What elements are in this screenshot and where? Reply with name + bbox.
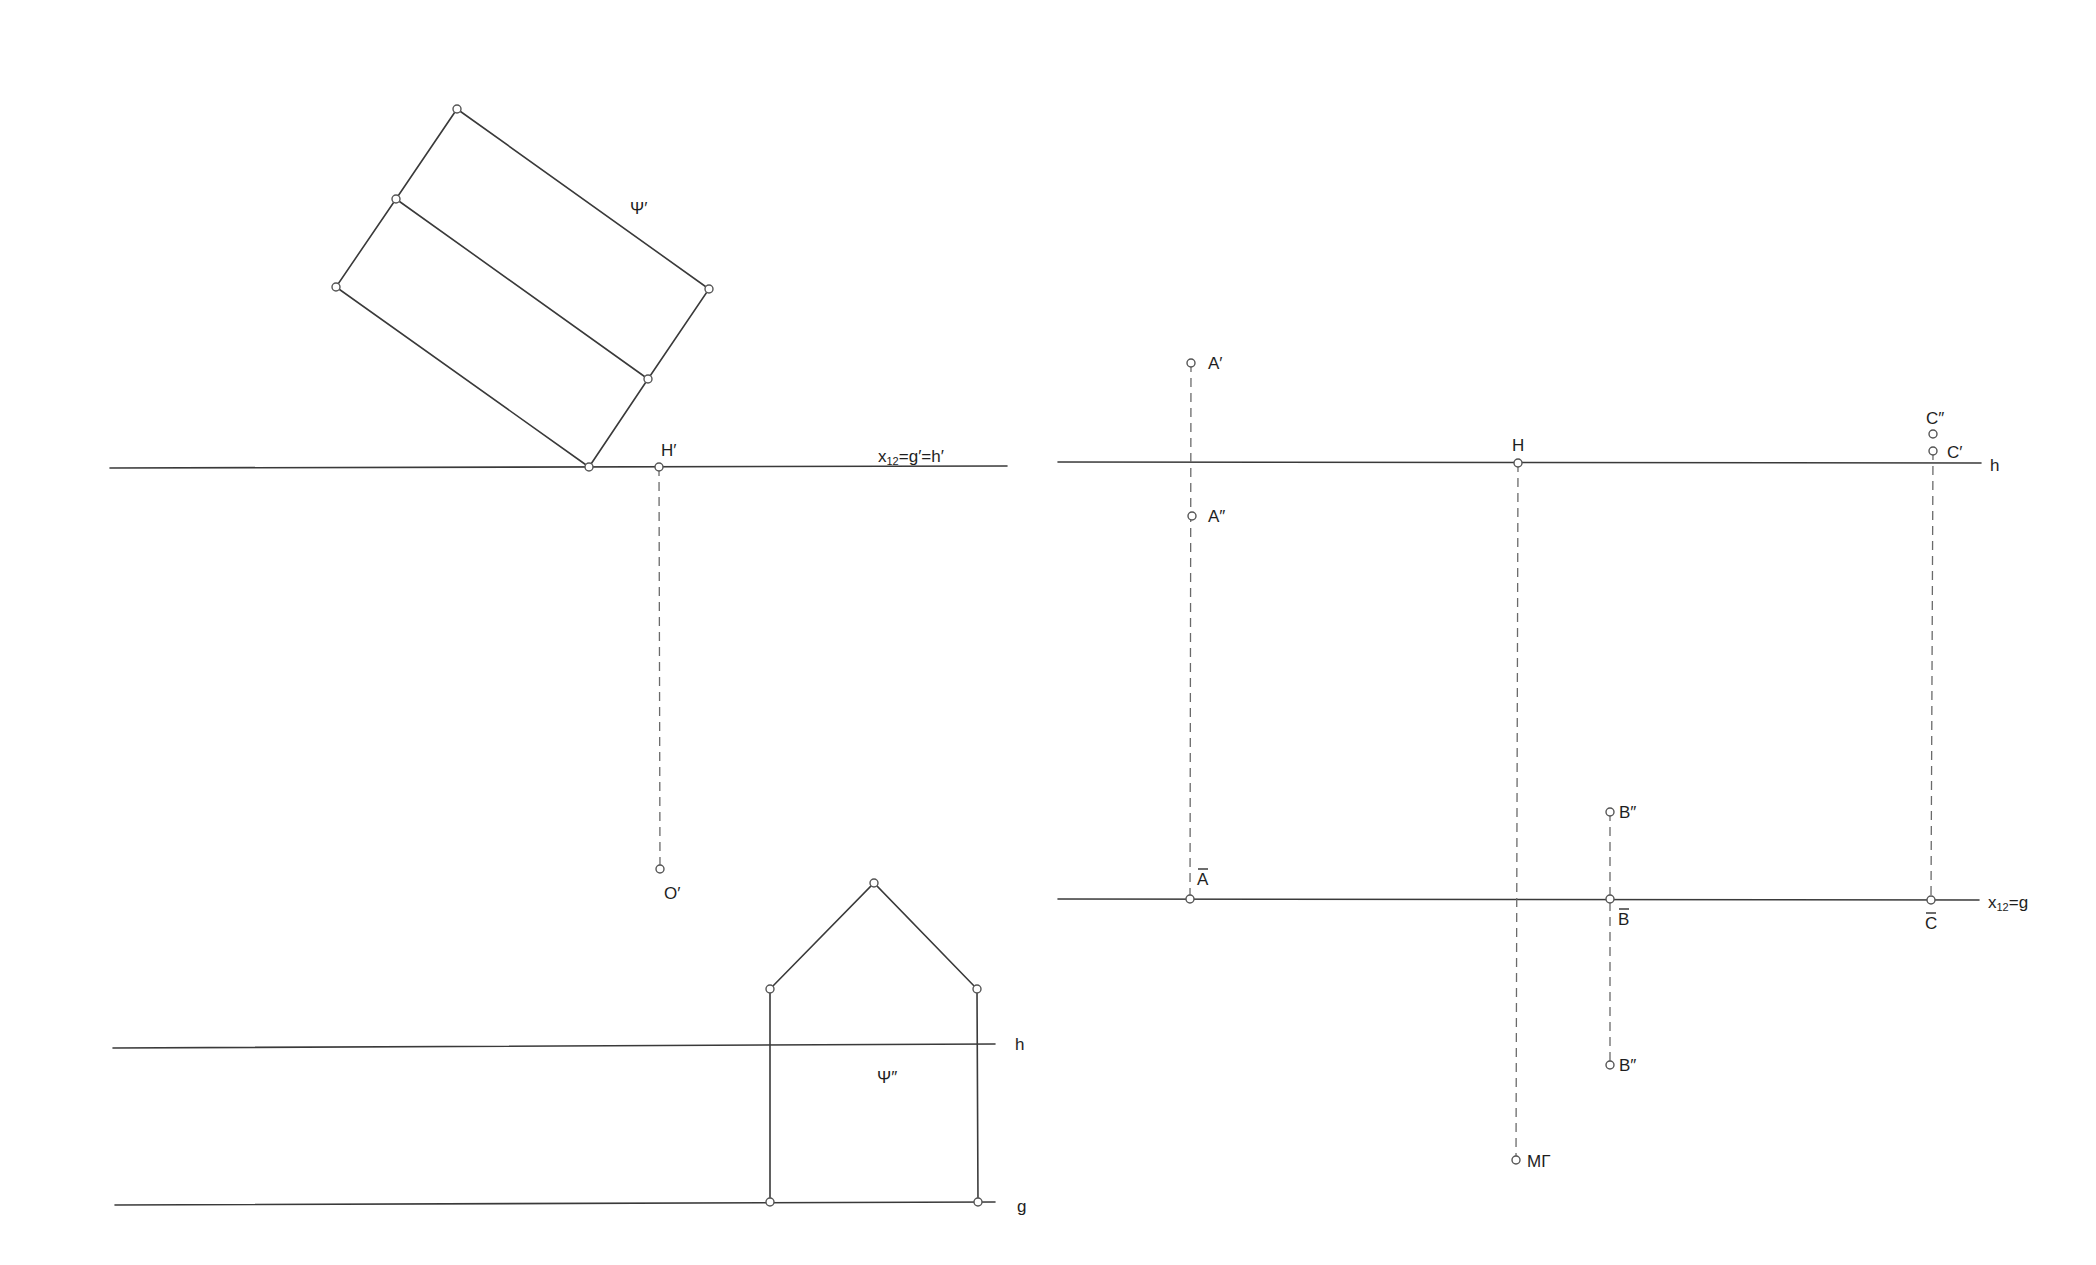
label-b-bar: B <box>1618 910 1629 929</box>
point-m-gamma <box>1512 1156 1520 1164</box>
label-a-bar: A <box>1197 870 1209 889</box>
right-view: hx12=gA′A″AHMΓB″BB″C″C′C <box>1058 354 2028 1171</box>
point-b-double-lower <box>1606 1061 1614 1069</box>
vertex-point-bottom <box>585 463 593 471</box>
label-c-bar: C <box>1925 914 1937 933</box>
point-a-double <box>1188 512 1196 520</box>
label-b-double-lower: B″ <box>1619 1056 1636 1075</box>
left-top-view: x12=g′=h′Ψ′H′O′ <box>110 105 1007 903</box>
label-psi-double: Ψ″ <box>877 1068 897 1087</box>
label-psi-prime: Ψ′ <box>630 199 647 218</box>
label-g: g <box>1017 1197 1026 1216</box>
axis-line-x12 <box>110 466 1007 468</box>
point-a-bar <box>1186 895 1194 903</box>
house-outline-psi-double <box>770 883 978 1202</box>
label-h: H <box>1512 436 1524 455</box>
vertex-point-mid-left <box>392 195 400 203</box>
projector-a <box>1190 363 1191 899</box>
label-h-right: h <box>1990 456 1999 475</box>
axis-label-x12-g: x12=g <box>1988 893 2028 913</box>
vertex-point-top <box>453 105 461 113</box>
descriptive-geometry-diagram: x12=g′=h′Ψ′H′O′ hgΨ″ hx12=gA′A″AHMΓB″BB″… <box>0 0 2096 1265</box>
point-c-bar <box>1927 896 1935 904</box>
rectangle-psi-prime <box>336 109 709 467</box>
label-h: h <box>1015 1035 1024 1054</box>
point-b-double-upper <box>1606 808 1614 816</box>
vertex-point-mid-right <box>644 375 652 383</box>
point-a-prime <box>1187 359 1195 367</box>
point-o-prime <box>656 865 664 873</box>
house-point-left-eave <box>766 985 774 993</box>
h-line <box>113 1044 995 1048</box>
house-point-apex <box>870 879 878 887</box>
vertex-point-right <box>705 285 713 293</box>
house-point-right-eave <box>973 985 981 993</box>
point-b-bar <box>1606 895 1614 903</box>
label-c-prime: C′ <box>1947 443 1962 462</box>
projector-h-o <box>659 467 660 869</box>
projector-h <box>1516 463 1518 1160</box>
label-a-prime: A′ <box>1208 354 1223 373</box>
label-a-double: A″ <box>1208 507 1225 526</box>
x12-g-line <box>1058 899 1979 900</box>
house-point-bottom-left <box>766 1198 774 1206</box>
house-point-bottom-right <box>974 1198 982 1206</box>
left-front-view: hgΨ″ <box>113 879 1026 1216</box>
point-c-prime <box>1929 447 1937 455</box>
point-h <box>1514 459 1522 467</box>
ridge-line <box>396 199 648 379</box>
g-line <box>115 1202 995 1205</box>
projector-c <box>1931 451 1933 900</box>
label-h-prime: H′ <box>661 441 676 460</box>
label-m-gamma: MΓ <box>1527 1152 1551 1171</box>
vertex-point-left <box>332 283 340 291</box>
point-h-prime <box>655 463 663 471</box>
axis-label-x12-g-h: x12=g′=h′ <box>878 447 944 467</box>
label-c-double: C″ <box>1926 409 1944 428</box>
label-o-prime: O′ <box>664 884 680 903</box>
label-b-double-upper: B″ <box>1619 803 1636 822</box>
point-c-double <box>1929 430 1937 438</box>
